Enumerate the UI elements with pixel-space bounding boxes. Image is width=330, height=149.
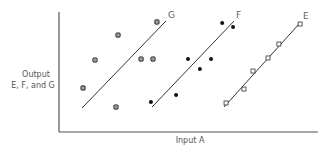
- series-label-f: F: [236, 10, 241, 20]
- open-square-marker: [251, 69, 255, 73]
- open-square-marker: [224, 101, 228, 105]
- series-label-g: G: [168, 10, 175, 20]
- filled-dot-marker: [231, 25, 235, 29]
- open-square-marker: [242, 87, 246, 91]
- series-g: G: [80, 10, 174, 110]
- series-e: E: [224, 11, 309, 107]
- series-label-e: E: [303, 11, 309, 21]
- plot-area: GFE: [80, 10, 308, 110]
- filled-dot-marker: [198, 67, 202, 71]
- filled-dot-marker: [149, 100, 153, 104]
- y-axis-label-line1: Output: [22, 70, 50, 79]
- y-axis-label-line2: E, F, and G: [11, 81, 55, 90]
- x-axis-label: Input A: [176, 136, 205, 145]
- open-square-marker: [266, 56, 270, 60]
- filled-dot-marker: [220, 21, 224, 25]
- open-square-marker: [298, 22, 302, 26]
- fit-line-g: [82, 21, 166, 108]
- open-square-marker: [277, 42, 281, 46]
- filled-dot-marker: [174, 93, 178, 97]
- fit-line-f: [152, 21, 234, 107]
- filled-dot-marker: [186, 57, 190, 61]
- scatter-chart: Output E, F, and G Input A GFE: [0, 0, 330, 149]
- filled-dot-marker: [209, 57, 213, 61]
- fit-line-e: [224, 22, 301, 107]
